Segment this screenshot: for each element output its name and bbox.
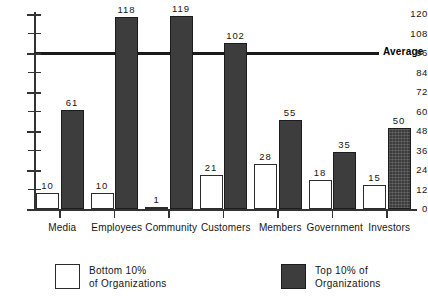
bar-value-label: 119 [162,4,201,14]
legend-swatch-bottom-decile [55,264,80,289]
y-axis-tick [27,131,41,133]
average-reference-line [34,52,379,55]
bar-bottom-decile [36,193,59,209]
legend-label-bottom-decile: Bottom 10% of Organizations [89,264,167,290]
x-axis-tick [386,209,388,218]
y-axis-tick-label: 72 [402,87,428,97]
bar-value-label: 50 [380,116,419,126]
bar-top-decile [61,110,84,209]
bar-bottom-decile [363,185,386,209]
bar-value-label: 118 [107,5,146,15]
bar-top-decile [333,152,356,209]
y-axis-tick [28,111,41,112]
x-axis-tick [114,209,116,218]
y-axis-tick [28,33,41,34]
bar-top-decile [115,17,138,209]
x-axis [34,209,417,211]
bar-top-decile [170,16,193,209]
bar-bottom-decile [254,164,277,210]
bar-top-decile [224,43,247,209]
y-axis-tick-label: 108 [402,29,428,39]
bar-bottom-decile [91,193,114,209]
legend-label-line2: Organizations [315,278,381,289]
y-axis-tick-label: 84 [402,68,428,78]
x-axis-tick [332,209,334,218]
y-axis-tick [27,170,41,172]
legend-label-line2: of Organizations [89,278,167,289]
x-axis-category-label: Investors [349,223,428,233]
y-axis-tick [28,72,41,73]
y-axis-tick-label: 120 [402,9,428,19]
bar-top-decile [388,128,411,209]
bar-value-label: 55 [271,108,310,118]
x-axis-tick [277,209,279,218]
y-axis-tick [27,92,41,94]
legend-label-line1: Top 10% of [315,265,368,276]
x-axis-tick [59,209,61,218]
bar-bottom-decile [145,207,168,209]
y-axis-tick-label: 60 [402,107,428,117]
legend-item-bottom-decile: Bottom 10% of Organizations [55,264,167,290]
x-axis-tick [168,209,170,218]
bar-bottom-decile [200,175,223,209]
y-axis-tick [27,53,41,55]
legend-item-top-decile: Top 10% of Organizations [281,264,381,290]
bar-top-decile [279,120,302,209]
bar-value-label: 35 [325,140,364,150]
y-axis-tick [28,150,41,151]
x-axis-tick [223,209,225,218]
plot-area: Average 012243648607284961081201061Media… [0,0,428,299]
legend-swatch-top-decile [281,264,306,289]
bar-bottom-decile [309,180,332,209]
bar-value-label: 102 [216,31,255,41]
legend-label-top-decile: Top 10% of Organizations [315,264,381,290]
bar-chart: Average 012243648607284961081201061Media… [0,0,428,299]
bar-value-label: 61 [53,98,92,108]
legend-label-line1: Bottom 10% [89,265,146,276]
y-axis-tick-label: 96 [402,48,428,58]
y-axis-tick [27,14,41,16]
